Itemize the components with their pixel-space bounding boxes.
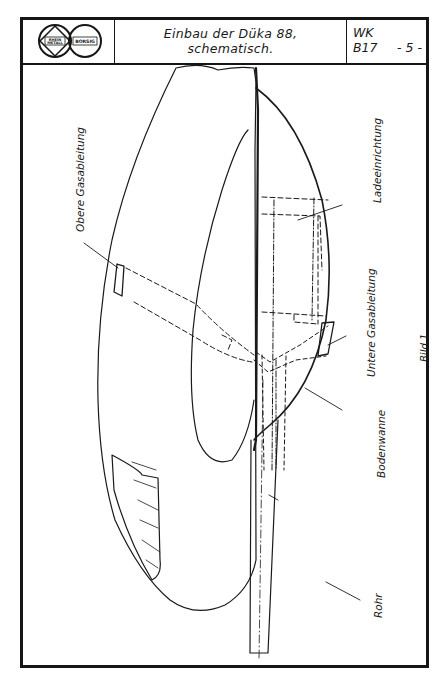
label-rohr: Rohr xyxy=(372,593,384,618)
logo-text-borsig: BORSIG xyxy=(75,39,95,44)
code-cell: WK B17 - 5 - xyxy=(347,20,426,63)
title-block: RHEIN METALL BORSIG Einbau der Düka 88, … xyxy=(23,20,426,65)
drawing-sheet: RHEIN METALL BORSIG Einbau der Düka 88, … xyxy=(0,0,446,682)
code-line-1: WK xyxy=(353,25,426,40)
logo-text-metall: METALL xyxy=(47,41,63,45)
rheinmetall-borsig-logo-icon: RHEIN METALL BORSIG xyxy=(37,23,105,59)
title-line-1: Einbau der Düka 88, xyxy=(115,26,346,41)
logo-cell: RHEIN METALL BORSIG xyxy=(23,20,115,63)
title-line-2: schematisch. xyxy=(115,41,346,56)
label-untere-gasableitung: Untere Gasableitung xyxy=(365,268,377,377)
figure-caption: Bild 1. xyxy=(419,331,430,362)
code-line-2: B17 xyxy=(353,40,377,55)
title-cell: Einbau der Düka 88, schematisch. xyxy=(115,20,347,63)
label-obere-gasableitung: Obere Gasableitung xyxy=(74,127,86,232)
label-ladeeinrichtung: Ladeeinrichtung xyxy=(371,118,383,203)
label-bodenwanne: Bodenwanne xyxy=(375,410,387,478)
page-number: - 5 - xyxy=(397,40,422,55)
